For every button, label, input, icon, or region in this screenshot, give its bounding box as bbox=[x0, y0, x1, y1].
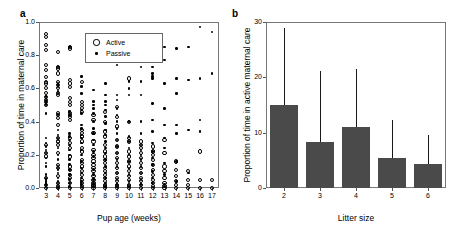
data-point-passive bbox=[68, 185, 71, 188]
error-bar bbox=[284, 28, 285, 105]
data-point-passive bbox=[92, 173, 95, 176]
data-point-passive bbox=[68, 135, 71, 138]
x-tick-mark bbox=[428, 188, 429, 191]
data-point-passive bbox=[151, 72, 154, 75]
data-point-passive bbox=[80, 134, 83, 137]
panel-a-x-axis-title: Pup age (weeks) bbox=[39, 213, 219, 223]
panel-a-legend: Active Passive bbox=[85, 33, 163, 63]
data-point-passive bbox=[92, 185, 95, 188]
data-point-passive bbox=[80, 183, 83, 186]
y-tick-label: 0 bbox=[240, 184, 262, 191]
data-point-passive bbox=[211, 72, 214, 75]
legend-label-passive: Passive bbox=[106, 50, 131, 57]
y-tick-mark bbox=[263, 133, 266, 134]
data-point-passive bbox=[104, 158, 107, 161]
data-point-active bbox=[44, 81, 48, 85]
x-tick-label: 3 bbox=[312, 192, 328, 199]
data-point-active bbox=[198, 178, 202, 182]
data-point-active bbox=[56, 71, 60, 75]
data-point-active bbox=[127, 149, 131, 153]
y-tick-mark bbox=[36, 55, 39, 56]
data-point-passive bbox=[140, 158, 143, 161]
data-point-active bbox=[68, 103, 72, 107]
data-point-passive bbox=[80, 92, 83, 95]
legend-label-active: Active bbox=[106, 39, 125, 46]
data-point-passive bbox=[92, 107, 95, 110]
x-tick-label: 5 bbox=[384, 192, 400, 199]
data-point-passive bbox=[175, 77, 178, 80]
y-tick-mark bbox=[263, 77, 266, 78]
y-tick-label: 0.8 bbox=[11, 51, 35, 58]
data-point-passive bbox=[104, 115, 107, 118]
data-point-passive bbox=[92, 112, 95, 115]
data-point-passive bbox=[57, 165, 60, 168]
data-point-passive bbox=[104, 134, 107, 137]
data-point-passive bbox=[151, 77, 154, 80]
data-point-passive bbox=[104, 185, 107, 188]
error-bar bbox=[428, 135, 429, 164]
y-tick-label: 0.4 bbox=[11, 118, 35, 125]
data-point-passive bbox=[104, 122, 107, 125]
data-point-passive bbox=[151, 66, 154, 69]
y-tick-label: 0.6 bbox=[11, 84, 35, 91]
data-point-passive bbox=[175, 92, 178, 95]
bar bbox=[414, 164, 443, 188]
data-point-active bbox=[198, 186, 202, 190]
data-point-active bbox=[80, 80, 84, 84]
y-tick-label: 20 bbox=[240, 73, 262, 80]
x-tick-mark bbox=[320, 188, 321, 191]
data-point-passive bbox=[140, 132, 143, 135]
data-point-active bbox=[56, 50, 60, 54]
data-point-passive bbox=[175, 124, 178, 127]
data-point-passive bbox=[151, 130, 154, 133]
data-point-passive bbox=[151, 150, 154, 153]
y-tick-mark bbox=[263, 188, 266, 189]
y-tick-label: 10 bbox=[240, 129, 262, 136]
data-point-active bbox=[80, 186, 84, 190]
y-tick-label: 0.2 bbox=[11, 151, 35, 158]
y-tick-mark bbox=[36, 155, 39, 156]
error-bar bbox=[320, 71, 321, 142]
data-point-passive bbox=[80, 112, 83, 115]
y-tick-mark bbox=[36, 188, 39, 189]
data-point-passive bbox=[68, 132, 71, 135]
bar bbox=[270, 105, 299, 188]
data-point-active bbox=[162, 164, 166, 168]
data-point-passive bbox=[104, 104, 107, 107]
data-point-passive bbox=[92, 139, 95, 142]
data-point-passive bbox=[104, 182, 107, 185]
data-point-passive bbox=[68, 110, 71, 113]
data-point-passive bbox=[175, 180, 178, 183]
data-point-active bbox=[210, 186, 214, 190]
data-point-passive bbox=[92, 132, 95, 135]
data-point-passive bbox=[151, 163, 154, 166]
data-point-passive bbox=[163, 173, 166, 176]
data-point-active bbox=[210, 178, 214, 182]
data-point-passive bbox=[68, 154, 71, 157]
data-point-passive bbox=[104, 100, 107, 103]
data-point-active bbox=[68, 85, 72, 89]
data-point-passive bbox=[104, 165, 107, 168]
filled-dot-icon bbox=[91, 52, 102, 55]
data-point-passive bbox=[80, 160, 83, 163]
x-tick-label: 17 bbox=[204, 192, 220, 199]
error-bar bbox=[356, 69, 357, 127]
data-point-passive bbox=[104, 140, 107, 143]
panel-b-bar: b Proportion of time in active maternal … bbox=[228, 0, 457, 235]
legend-item-passive: Passive bbox=[91, 48, 157, 59]
data-point-passive bbox=[57, 180, 60, 183]
y-tick-mark bbox=[36, 122, 39, 123]
data-point-passive bbox=[163, 124, 166, 127]
x-tick-label: 6 bbox=[420, 192, 436, 199]
data-point-active bbox=[68, 118, 72, 122]
panel-a-scatter: a Proportion of time in maternal care Pu… bbox=[0, 0, 228, 235]
y-tick-label: 1.0 bbox=[11, 18, 35, 25]
x-tick-label: 2 bbox=[276, 192, 292, 199]
data-point-active bbox=[139, 186, 143, 190]
figure-container: a Proportion of time in maternal care Pu… bbox=[0, 0, 457, 235]
x-tick-mark bbox=[356, 188, 357, 191]
data-point-passive bbox=[140, 80, 143, 83]
y-tick-mark bbox=[36, 22, 39, 23]
data-point-passive bbox=[175, 132, 178, 135]
data-point-passive bbox=[175, 160, 178, 163]
